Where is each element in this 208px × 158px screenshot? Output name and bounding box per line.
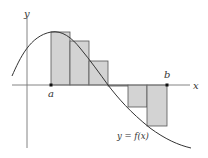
point-a-label: a bbox=[48, 88, 54, 99]
riemann-sum-figure: y x a b y = f(x) bbox=[0, 0, 208, 158]
curve-label: y = f(x) bbox=[116, 131, 149, 141]
riemann-rectangles bbox=[51, 32, 167, 126]
point-b-label: b bbox=[164, 69, 170, 80]
rectangle-5 bbox=[128, 85, 147, 107]
y-axis-label: y bbox=[23, 8, 30, 19]
rectangle-6 bbox=[147, 85, 167, 126]
point-a-marker bbox=[50, 84, 53, 87]
point-b-marker bbox=[166, 84, 169, 87]
rectangle-1 bbox=[51, 32, 70, 85]
x-axis-label: x bbox=[193, 80, 199, 91]
